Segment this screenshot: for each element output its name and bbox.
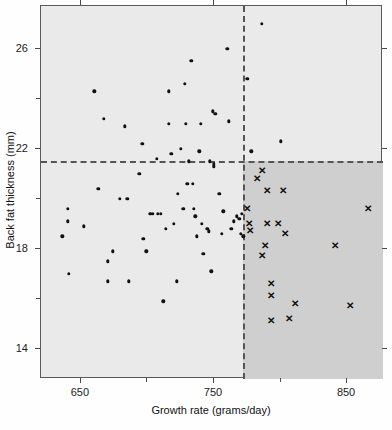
scatter-plot-figure: ✕✕✕✕✕✕✕✕✕✕✕✕✕✕✕✕✕✕✕✕ 14182226 650750850 … [0,0,392,430]
data-point-dot [220,232,223,235]
data-point-cross: ✕ [285,314,293,324]
data-point-dot [142,237,145,240]
data-point-dot [202,252,205,255]
data-point-dot [144,250,147,253]
data-point-dot [195,235,198,238]
data-point-dot [170,152,173,155]
y-tick-label: 22 [16,142,35,154]
y-tick-mark [35,348,40,349]
data-point-cross: ✕ [263,186,271,196]
x-tick-label: 850 [337,386,355,398]
x-axis-title: Growth rate (grams/day) [151,404,270,416]
data-point-dot [227,119,230,122]
data-point-dot [140,142,143,145]
data-point-dot [200,222,203,225]
data-point-dot [93,89,96,92]
data-point-dot [198,149,201,152]
data-point-dot [212,165,215,168]
data-point-dot [167,122,170,125]
x-tick-label: 650 [71,386,89,398]
data-point-dot [250,149,253,152]
data-point-dot [176,192,179,195]
data-point-cross: ✕ [267,279,275,289]
data-point-dot [123,124,126,127]
data-point-dot [127,280,130,283]
y-tick-mark [35,148,40,149]
y-tick-mark-right [382,248,387,249]
data-point-dot [118,197,121,200]
x-tick-mark [213,378,214,383]
data-point-cross: ✕ [258,166,266,176]
data-point-dot [66,207,69,210]
data-point-dot [155,157,158,160]
y-tick-mark-right [382,348,387,349]
data-point-dot [186,182,189,185]
data-point-dot [214,112,217,115]
x-tick-mark-minor [146,378,147,382]
data-point-dot [175,280,178,283]
data-point-dot [182,207,185,210]
data-point-dot [184,122,187,125]
y-tick-label: 18 [16,242,35,254]
data-point-cross: ✕ [346,301,354,311]
data-point-cross: ✕ [364,204,372,214]
data-point-dot [126,197,129,200]
data-point-dot [106,260,109,263]
x-tick-mark-top [80,0,81,5]
data-point-dot [67,272,70,275]
y-tick-mark-minor [36,298,40,299]
data-point-dot [183,82,186,85]
data-point-cross: ✕ [331,241,339,251]
y-tick-mark-right [382,148,387,149]
data-point-dot [82,225,85,228]
data-point-cross: ✕ [267,291,275,301]
data-point-dot [246,77,249,80]
x-tick-mark-top [213,0,214,5]
data-point-cross: ✕ [267,316,275,326]
data-point-dot [106,280,109,283]
data-point-dot [179,147,182,150]
x-tick-mark [346,378,347,383]
y-tick-mark [35,248,40,249]
data-point-cross: ✕ [279,186,287,196]
data-point-dot [279,139,282,142]
data-point-dot [66,220,69,223]
plot-area: ✕✕✕✕✕✕✕✕✕✕✕✕✕✕✕✕✕✕✕✕ [40,5,382,378]
data-point-dot [260,22,263,25]
y-tick-mark-minor [36,98,40,99]
data-point-cross: ✕ [246,226,254,236]
data-point-dot [111,250,114,253]
y-tick-mark-right [382,48,387,49]
data-point-dot [191,182,194,185]
data-point-cross: ✕ [258,251,266,261]
data-point-dot [222,210,225,213]
data-point-cross: ✕ [291,299,299,309]
data-point-dot [226,47,229,50]
data-point-dot [192,207,195,210]
data-point-dot [97,187,100,190]
y-tick-mark [35,48,40,49]
growth-rate-threshold-line [243,6,245,379]
y-tick-label: 14 [16,342,35,354]
data-point-dot [162,300,165,303]
x-tick-mark [80,378,81,383]
data-point-dot [207,230,210,233]
data-point-dot [218,192,221,195]
data-point-dot [172,222,175,225]
y-tick-mark-minor [36,198,40,199]
data-point-cross: ✕ [243,204,251,214]
x-tick-label: 750 [204,386,222,398]
data-point-dot [151,212,154,215]
data-point-dot [194,215,197,218]
data-point-cross: ✕ [281,229,289,239]
data-point-dot [164,227,167,230]
y-tick-label: 26 [16,42,35,54]
x-tick-mark-minor [280,378,281,382]
data-point-dot [61,235,64,238]
x-tick-mark-top [346,0,347,5]
data-point-dot [138,172,141,175]
data-point-dot [102,117,105,120]
data-point-dot [159,212,162,215]
data-point-dot [230,227,233,230]
data-point-dot [167,89,170,92]
